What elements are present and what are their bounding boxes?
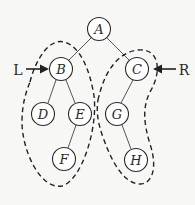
edge-e-f [68, 125, 76, 148]
left-pointer-label: L [13, 62, 22, 78]
node-e: E [69, 103, 92, 126]
node-d: D [32, 103, 55, 126]
left-pointer: L [13, 62, 49, 78]
node-g-label: G [112, 107, 122, 122]
node-h: H [125, 149, 148, 172]
node-e-label: E [74, 107, 85, 122]
node-a-label: A [93, 22, 103, 37]
tree-diagram: A B C D E F G H L R [0, 0, 195, 205]
right-arrow-icon [40, 65, 49, 74]
edge-g-h [122, 125, 131, 149]
node-a: A [88, 18, 111, 41]
right-pointer: R [153, 62, 190, 78]
node-f-label: F [58, 152, 69, 167]
node-d-label: D [37, 107, 49, 122]
edge-a-c [107, 38, 129, 60]
node-b-label: B [55, 62, 66, 77]
node-f: F [53, 148, 76, 171]
node-h-label: H [129, 153, 142, 168]
node-c-label: C [132, 62, 142, 77]
right-pointer-label: R [179, 62, 190, 78]
tree-edges [48, 38, 133, 149]
edge-b-d [48, 80, 56, 103]
node-c: C [126, 58, 149, 81]
node-b: B [50, 58, 73, 81]
edge-c-g [121, 80, 133, 103]
node-g: G [106, 103, 129, 126]
edge-b-e [66, 80, 75, 103]
edge-a-b [69, 38, 91, 60]
